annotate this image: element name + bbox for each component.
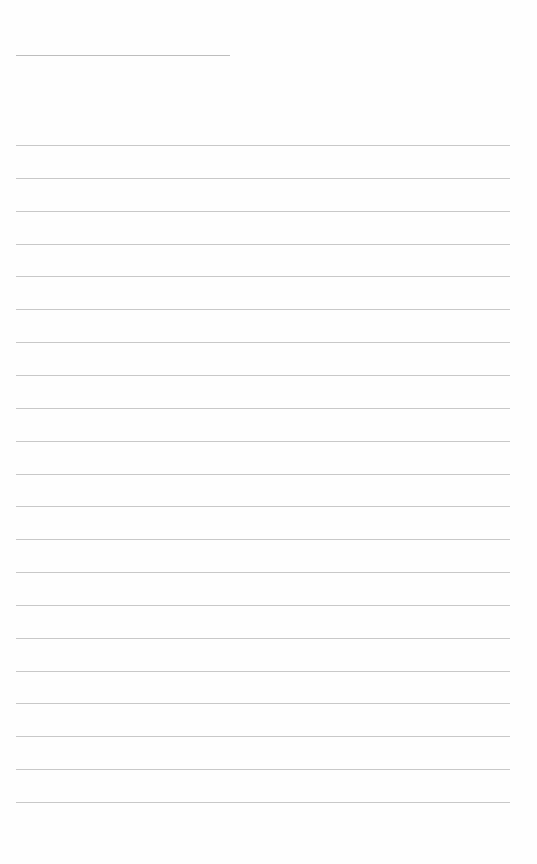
ruled-line (16, 342, 510, 343)
ruled-line (16, 309, 510, 310)
ruled-line (16, 244, 510, 245)
ruled-line (16, 539, 510, 540)
ruled-line (16, 703, 510, 704)
name-header-line (16, 55, 230, 56)
ruled-line (16, 638, 510, 639)
ruled-line (16, 408, 510, 409)
ruled-line (16, 441, 510, 442)
ruled-line (16, 276, 510, 277)
ruled-line (16, 474, 510, 475)
ruled-line (16, 506, 510, 507)
ruled-line (16, 736, 510, 737)
ruled-line (16, 178, 510, 179)
ruled-line (16, 145, 510, 146)
ruled-line (16, 671, 510, 672)
ruled-line (16, 211, 510, 212)
ruled-line (16, 769, 510, 770)
lined-paper-page (0, 0, 537, 864)
ruled-line (16, 375, 510, 376)
ruled-line (16, 572, 510, 573)
ruled-line (16, 605, 510, 606)
ruled-line (16, 802, 510, 803)
